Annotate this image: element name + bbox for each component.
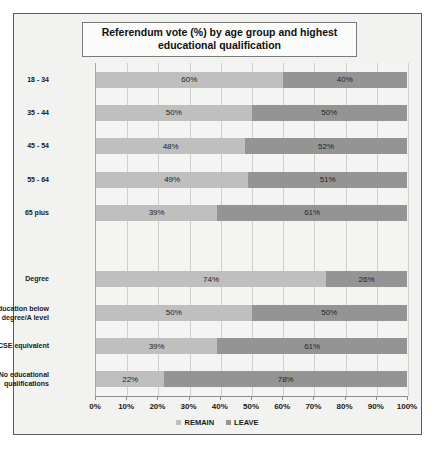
bar-segment-leave[interactable]: 51%	[248, 172, 407, 188]
category-label: 35 - 44	[0, 108, 49, 117]
bar-segment-leave[interactable]: 78%	[164, 371, 407, 387]
category-label: Degree	[0, 275, 49, 284]
bar-segment-remain[interactable]: 39%	[96, 338, 217, 354]
x-tick-mark	[282, 396, 283, 400]
bar-segment-leave[interactable]: 50%	[252, 305, 408, 321]
bar-row: 50%50%	[96, 296, 407, 329]
bar-row: 22%78%	[96, 363, 407, 396]
legend-label: REMAIN	[184, 418, 214, 427]
bar-segment-remain[interactable]: 48%	[96, 138, 245, 154]
bar-row: 39%61%	[96, 329, 407, 362]
x-tick-mark	[189, 396, 190, 400]
chart-legend: REMAINLEAVE	[14, 418, 421, 427]
x-tick-mark	[376, 396, 377, 400]
chart-frame: Referendum vote (%) by age group and hig…	[13, 13, 422, 435]
stacked-bar[interactable]: 22%78%	[96, 371, 407, 387]
gridline	[408, 63, 409, 396]
chart-title: Referendum vote (%) by age group and hig…	[82, 22, 357, 57]
bar-segment-remain[interactable]: 49%	[96, 172, 248, 188]
x-tick-mark	[251, 396, 252, 400]
stacked-bar[interactable]: 50%50%	[96, 305, 407, 321]
x-tick-mark	[220, 396, 221, 400]
x-tick-mark	[407, 396, 408, 400]
legend-label: LEAVE	[234, 418, 258, 427]
bar-row: 74%26%	[96, 263, 407, 296]
legend-swatch-icon	[176, 420, 181, 425]
x-tick-label: 100%	[387, 402, 427, 411]
stacked-bar[interactable]: 48%52%	[96, 138, 407, 154]
bar-segment-leave[interactable]: 61%	[217, 205, 407, 221]
bar-segment-leave[interactable]: 50%	[252, 105, 408, 121]
x-tick-mark	[126, 396, 127, 400]
bar-row	[96, 230, 407, 263]
bar-segment-remain[interactable]: 60%	[96, 72, 283, 88]
bar-segment-leave[interactable]: 52%	[245, 138, 407, 154]
bar-segment-remain[interactable]: 50%	[96, 105, 252, 121]
legend-item[interactable]: REMAIN	[176, 418, 214, 427]
bar-segment-leave[interactable]: 26%	[326, 271, 407, 287]
category-label: 18 - 34	[0, 75, 49, 84]
x-tick-mark	[157, 396, 158, 400]
bar-row: 60%40%	[96, 63, 407, 96]
x-tick-mark	[95, 396, 96, 400]
bar-segment-remain[interactable]: 74%	[96, 271, 326, 287]
bar-segment-remain[interactable]: 22%	[96, 371, 164, 387]
stacked-bar[interactable]: 50%50%	[96, 105, 407, 121]
bar-row: 49%51%	[96, 163, 407, 196]
bar-segment-leave[interactable]: 61%	[217, 338, 407, 354]
category-label: GCSE equivalent	[0, 342, 49, 351]
stacked-bar[interactable]: 39%61%	[96, 205, 407, 221]
stacked-bar[interactable]: 60%40%	[96, 72, 407, 88]
category-label: 55 - 64	[0, 175, 49, 184]
legend-item[interactable]: LEAVE	[226, 418, 258, 427]
category-label: No educational qualifications	[0, 370, 49, 388]
bar-rows: 60%40%50%50%48%52%49%51%39%61%74%26%50%5…	[96, 63, 407, 396]
x-tick-mark	[345, 396, 346, 400]
x-tick-mark	[313, 396, 314, 400]
plot-area: 60%40%50%50%48%52%49%51%39%61%74%26%50%5…	[95, 63, 407, 396]
legend-swatch-icon	[226, 420, 231, 425]
stacked-bar[interactable]: 39%61%	[96, 338, 407, 354]
bar-row: 39%61%	[96, 196, 407, 229]
category-label: 65 plus	[0, 208, 49, 217]
bar-segment-remain[interactable]: 50%	[96, 305, 252, 321]
bar-row: 48%52%	[96, 130, 407, 163]
stacked-bar[interactable]: 49%51%	[96, 172, 407, 188]
category-label: 45 - 54	[0, 142, 49, 151]
bar-row: 50%50%	[96, 96, 407, 129]
stacked-bar[interactable]: 74%26%	[96, 271, 407, 287]
bar-segment-leave[interactable]: 40%	[283, 72, 407, 88]
category-label: Higher education below degree/A level	[0, 304, 49, 322]
bar-segment-remain[interactable]: 39%	[96, 205, 217, 221]
